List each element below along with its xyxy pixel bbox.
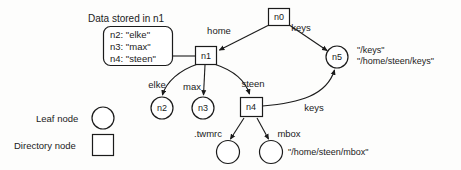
- data-box-entry-n2: n2: "elke": [110, 29, 150, 41]
- node-n2-label: n2: [157, 103, 167, 114]
- node-n0-label: n0: [274, 12, 284, 23]
- edge-max: [204, 65, 206, 95]
- node-n4-label: n4: [246, 102, 256, 113]
- edge-label-home: home: [207, 25, 231, 36]
- annotation-keys-path-2: "/home/steen/keys": [357, 56, 434, 67]
- edge-label-keys-root: keys: [291, 22, 311, 33]
- annotation-keys-path-1: "/keys": [357, 45, 384, 56]
- legend-leaf-node-icon: [92, 107, 114, 129]
- node-n1-label: n1: [201, 51, 211, 62]
- legend-directory-node-icon: [93, 135, 114, 156]
- edge-label-keys-hard-link: keys: [304, 102, 324, 113]
- edge-label-mbox: mbox: [277, 128, 300, 139]
- annotation-mbox-path: "/home/steen/mbox": [288, 147, 368, 158]
- diagram-canvas: Data stored in n1 n2: "elke" n3: "max" n…: [0, 0, 461, 170]
- legend-label-directory-node: Directory node: [14, 140, 76, 151]
- node-n3-label: n3: [198, 103, 208, 114]
- legend-label-leaf-node: Leaf node: [36, 113, 78, 124]
- data-box-entry-n3: n3: "max": [110, 41, 151, 53]
- edge-label-steen: steen: [241, 78, 264, 89]
- edge-label-twmrc: .twmrc: [194, 128, 222, 139]
- node-n5-label: n5: [332, 52, 342, 63]
- edge-label-elke: elke: [148, 79, 165, 90]
- node-leaf-mbox-shape[interactable]: [260, 141, 283, 164]
- edge-twmrc: [231, 118, 245, 139]
- edge-label-max: max: [183, 81, 201, 92]
- edge-mbox: [257, 118, 269, 139]
- data-box-entry-n4: n4: "steen": [110, 53, 156, 65]
- data-box-caption: Data stored in n1: [88, 13, 164, 24]
- node-leaf-twmrc-shape[interactable]: [217, 141, 240, 164]
